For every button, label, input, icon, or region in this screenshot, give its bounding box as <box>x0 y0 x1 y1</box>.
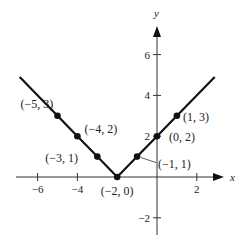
data-point <box>154 133 161 140</box>
point-label: (−5, 3) <box>21 97 54 111</box>
data-point <box>174 113 181 120</box>
y-tick-label: −2 <box>138 212 150 224</box>
x-tick-label: −6 <box>32 183 44 195</box>
y-tick-label: 4 <box>145 89 151 101</box>
y-axis-arrow-icon <box>153 26 161 37</box>
point-label: (1, 3) <box>183 110 209 124</box>
point-label: (−4, 2) <box>84 122 117 136</box>
data-point <box>134 153 141 160</box>
y-tick-label: 2 <box>145 130 151 142</box>
y-tick-label: 6 <box>145 49 151 61</box>
data-point <box>74 133 81 140</box>
data-point <box>94 153 101 160</box>
data-point <box>54 113 61 120</box>
point-label: (−1, 1) <box>158 157 191 171</box>
x-tick-label: −4 <box>72 183 84 195</box>
point-label: (0, 2) <box>169 130 195 144</box>
plot-area: xy−6−42642−2(−5, 3)(−4, 2)(−3, 1)(−2, 0)… <box>0 0 247 251</box>
data-point <box>114 174 121 181</box>
point-label: (−2, 0) <box>101 184 134 198</box>
y-axis-label: y <box>153 7 159 19</box>
x-tick-label: 2 <box>194 183 200 195</box>
graph-figure: xy−6−42642−2(−5, 3)(−4, 2)(−3, 1)(−2, 0)… <box>0 0 247 251</box>
x-axis-label: x <box>229 171 235 183</box>
point-label: (−3, 1) <box>45 151 78 165</box>
label-leader-line <box>141 158 156 163</box>
x-axis-arrow-icon <box>213 173 224 181</box>
